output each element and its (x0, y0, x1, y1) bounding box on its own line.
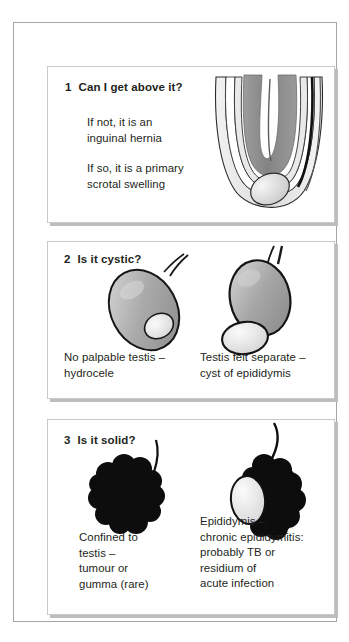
panel-2-number: 2 (64, 253, 71, 265)
epididymal-cyst-diagram (208, 246, 318, 358)
outer-frame: 1Can I get above it? If not, it is an in… (13, 22, 337, 622)
panel-1-text-hernia: If not, it is an inguinal hernia (87, 115, 162, 146)
epididymal-cyst-caption: Testis felt separate – cyst of epididymi… (200, 350, 306, 381)
panel-question-3: 3Is it solid? (47, 419, 335, 615)
inguinal-hernia-diagram (208, 71, 332, 221)
panel-1-heading: 1Can I get above it? (65, 81, 183, 93)
testicular-tumour-diagram (80, 438, 190, 542)
hydrocele-caption: No palpable testis – hydrocele (64, 350, 165, 381)
cord-line (154, 440, 158, 472)
lumpy-mass (88, 454, 165, 534)
panel-question-1: 1Can I get above it? If not, it is an in… (47, 66, 335, 223)
cord-line-b (278, 246, 282, 264)
cord-line-a (268, 246, 274, 262)
cord-line (270, 423, 277, 462)
panel-3-number: 3 (64, 434, 71, 446)
panel-1-text-primary: If so, it is a primary scrotal swelling (87, 161, 184, 192)
hydrocele-diagram (96, 254, 204, 354)
hydrocele-sac (95, 257, 193, 362)
panel-1-question: Can I get above it? (79, 81, 183, 93)
bowel-central-groove (269, 79, 271, 161)
chronic-epididymitis-caption: Epididymis – chronic epididymitis: proba… (200, 514, 304, 592)
panel-question-2: 2Is it cystic? (47, 241, 335, 399)
panel-1-number: 1 (65, 81, 72, 93)
testicular-tumour-caption: Confined to testis – tumour or gumma (ra… (79, 530, 149, 592)
